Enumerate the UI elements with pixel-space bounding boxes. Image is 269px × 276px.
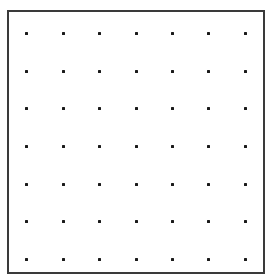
grid-dot bbox=[171, 220, 174, 223]
grid-dot bbox=[25, 258, 28, 261]
grid-dot bbox=[135, 70, 138, 73]
grid-dot bbox=[244, 70, 247, 73]
grid-dot bbox=[98, 145, 101, 148]
grid-dot bbox=[62, 70, 65, 73]
grid-dot bbox=[135, 107, 138, 110]
grid-dot bbox=[244, 107, 247, 110]
grid-dot bbox=[135, 183, 138, 186]
grid-dot bbox=[98, 183, 101, 186]
grid-dot bbox=[98, 258, 101, 261]
dot-grid-frame bbox=[7, 10, 265, 274]
grid-dot bbox=[244, 145, 247, 148]
grid-dot bbox=[25, 183, 28, 186]
grid-dot bbox=[171, 107, 174, 110]
grid-dot bbox=[244, 32, 247, 35]
grid-dot bbox=[135, 258, 138, 261]
grid-dot bbox=[62, 220, 65, 223]
grid-dot bbox=[25, 32, 28, 35]
grid-dot bbox=[244, 183, 247, 186]
grid-dot bbox=[25, 107, 28, 110]
grid-dot bbox=[171, 70, 174, 73]
grid-dot bbox=[135, 32, 138, 35]
grid-dot bbox=[244, 258, 247, 261]
grid-dot bbox=[207, 258, 210, 261]
grid-dot bbox=[171, 145, 174, 148]
grid-dot bbox=[171, 258, 174, 261]
grid-dot bbox=[171, 32, 174, 35]
grid-dot bbox=[62, 258, 65, 261]
grid-dot bbox=[135, 145, 138, 148]
grid-dot bbox=[98, 107, 101, 110]
grid-dot bbox=[207, 70, 210, 73]
grid-dot bbox=[98, 32, 101, 35]
grid-dot bbox=[207, 183, 210, 186]
grid-dot bbox=[25, 145, 28, 148]
grid-dot bbox=[98, 70, 101, 73]
grid-dot bbox=[207, 220, 210, 223]
grid-dot bbox=[98, 220, 101, 223]
grid-dot bbox=[207, 32, 210, 35]
grid-dot bbox=[62, 145, 65, 148]
grid-dot bbox=[244, 220, 247, 223]
grid-dot bbox=[25, 220, 28, 223]
grid-dot bbox=[62, 107, 65, 110]
grid-dot bbox=[25, 70, 28, 73]
grid-dot bbox=[207, 107, 210, 110]
grid-dot bbox=[171, 183, 174, 186]
grid-dot bbox=[62, 183, 65, 186]
grid-dot bbox=[135, 220, 138, 223]
grid-dot bbox=[207, 145, 210, 148]
grid-dot bbox=[62, 32, 65, 35]
